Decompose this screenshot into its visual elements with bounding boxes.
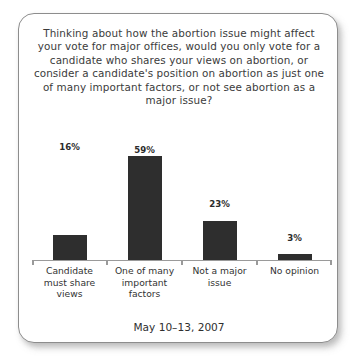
x-axis-label-line: Not a major — [182, 265, 257, 277]
poll-result-card: Thinking about how the abortion issue mi… — [18, 13, 338, 343]
x-axis-label: One of many important factors — [107, 265, 182, 300]
x-axis-label-line: important — [107, 277, 182, 289]
bar-group: 16% — [32, 127, 107, 260]
x-axis-labels: Candidate must share views One of many i… — [32, 265, 332, 300]
bar-value-label: 16% — [59, 142, 80, 152]
bar-value-label: 59% — [134, 145, 155, 155]
x-axis-label: Candidate must share views — [32, 265, 107, 300]
x-axis-label-line: factors — [107, 288, 182, 300]
bar-value-label: 3% — [287, 233, 302, 243]
x-axis-label-line: No opinion — [257, 265, 332, 277]
x-axis-label: No opinion — [257, 265, 332, 300]
bar — [53, 235, 87, 260]
x-axis-line — [32, 260, 332, 262]
x-axis-label-line: must share — [32, 277, 107, 289]
x-axis-label-line: issue — [182, 277, 257, 289]
bar-group: 23% — [182, 127, 257, 260]
bar — [128, 156, 162, 260]
bar-group: 3% — [257, 127, 332, 260]
bar-chart: 16% 59% 23% 3% — [32, 126, 332, 261]
x-axis-label-line: views — [32, 288, 107, 300]
bar-group: 59% — [107, 127, 182, 260]
x-axis-label: Not a major issue — [182, 265, 257, 300]
survey-date: May 10–13, 2007 — [19, 321, 339, 333]
poll-question: Thinking about how the abortion issue mi… — [33, 27, 325, 107]
bar-value-label: 23% — [209, 199, 230, 209]
x-axis-label-line: One of many — [107, 265, 182, 277]
x-axis-label-line: Candidate — [32, 265, 107, 277]
bar — [203, 221, 237, 260]
